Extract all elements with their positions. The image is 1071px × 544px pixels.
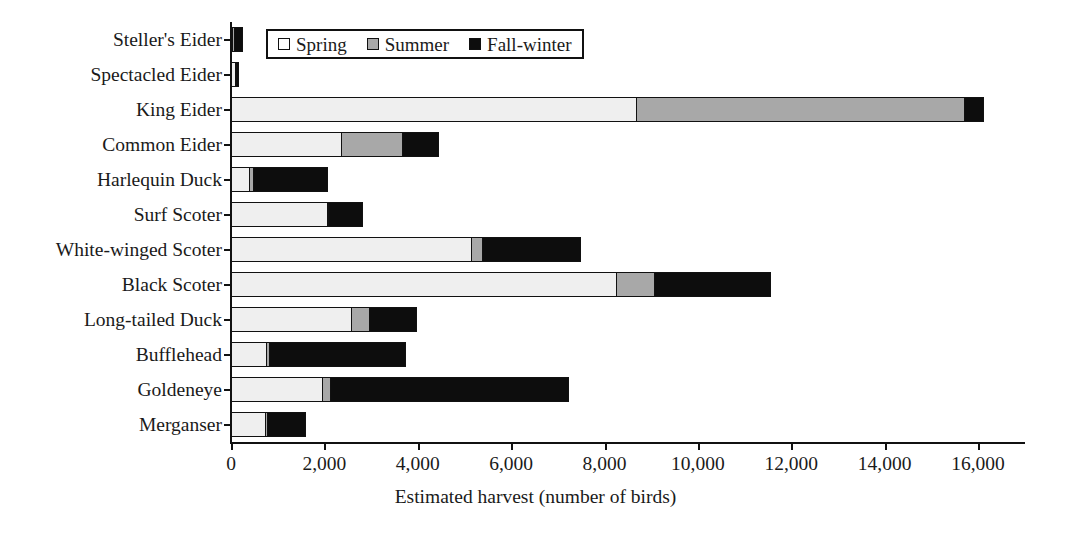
stacked-bar	[231, 132, 437, 157]
y-axis-tick	[224, 284, 231, 286]
legend-swatch-spring	[278, 38, 290, 50]
bar-segment-fall-winter	[236, 62, 239, 87]
bar-row: Bufflehead	[231, 337, 1025, 372]
x-axis-title: Estimated harvest (number of birds)	[0, 487, 1071, 507]
x-axis-tick	[885, 442, 887, 450]
bar-segment-fall-winter	[269, 342, 406, 367]
y-axis-label: Common Eider	[102, 135, 222, 155]
x-axis-tick-label: 10,000	[671, 454, 725, 474]
bar-segment-spring	[231, 97, 638, 122]
bar-row: Long-tailed Duck	[231, 302, 1025, 337]
y-axis-tick	[224, 249, 231, 251]
bar-segment-summer	[341, 132, 404, 157]
bar-segment-spring	[231, 202, 328, 227]
legend-item-spring: Spring	[278, 35, 347, 54]
legend-label-summer: Summer	[385, 35, 449, 54]
x-axis-tick-label: 8,000	[583, 454, 627, 474]
x-axis-tick	[605, 442, 607, 450]
y-axis-label: Black Scoter	[122, 275, 222, 295]
x-axis-tick-label: 16,000	[951, 454, 1005, 474]
x-axis-tick	[418, 442, 420, 450]
bar-segment-spring	[231, 412, 267, 437]
y-axis-label: King Eider	[136, 100, 222, 120]
bar-segment-summer	[616, 272, 656, 297]
x-axis-tick-label: 14,000	[858, 454, 912, 474]
bar-row: Surf Scoter	[231, 197, 1025, 232]
bar-segment-fall-winter	[234, 27, 243, 52]
y-axis-tick	[224, 39, 231, 41]
y-axis-tick	[224, 319, 231, 321]
x-axis-tick-label: 12,000	[764, 454, 818, 474]
plot-area: Steller's EiderSpectacled EiderKing Eide…	[231, 22, 1025, 442]
chart-legend: Spring Summer Fall-winter	[266, 29, 584, 59]
stacked-bar	[231, 237, 579, 262]
x-axis-tick	[324, 442, 326, 450]
bar-segment-fall-winter	[964, 97, 984, 122]
x-axis-line	[231, 442, 1025, 444]
x-axis-tick	[231, 442, 233, 450]
stacked-bar	[231, 62, 237, 87]
y-axis-tick	[224, 214, 231, 216]
y-axis-label: White-winged Scoter	[56, 240, 222, 260]
bar-segment-fall-winter	[267, 412, 307, 437]
stacked-bar	[231, 342, 404, 367]
stacked-bar	[231, 97, 982, 122]
x-axis-tick-label: 0	[226, 454, 236, 474]
bar-segment-spring	[231, 132, 342, 157]
x-axis-tick	[511, 442, 513, 450]
bar-segment-spring	[231, 307, 353, 332]
y-axis-label: Spectacled Eider	[90, 65, 222, 85]
y-axis-tick	[224, 179, 231, 181]
bar-row: Harlequin Duck	[231, 162, 1025, 197]
x-axis-tick	[698, 442, 700, 450]
x-axis-tick	[791, 442, 793, 450]
bar-segment-fall-winter	[482, 237, 581, 262]
legend-item-summer: Summer	[367, 35, 449, 54]
y-axis-tick	[224, 74, 231, 76]
y-axis-label: Merganser	[139, 415, 222, 435]
bar-segment-spring	[231, 272, 617, 297]
legend-label-fall-winter: Fall-winter	[487, 35, 571, 54]
legend-swatch-fall-winter	[469, 38, 481, 50]
bar-segment-spring	[231, 342, 268, 367]
bar-row: Merganser	[231, 407, 1025, 442]
stacked-bar	[231, 202, 361, 227]
y-axis-tick	[224, 109, 231, 111]
bar-segment-fall-winter	[402, 132, 439, 157]
y-axis-label: Surf Scoter	[134, 205, 222, 225]
y-axis-tick	[224, 424, 231, 426]
bar-segment-fall-winter	[328, 202, 363, 227]
y-axis-tick	[224, 144, 231, 146]
stacked-bar	[231, 272, 770, 297]
bar-segment-spring	[231, 377, 324, 402]
bar-segment-spring	[231, 237, 473, 262]
legend-item-fall-winter: Fall-winter	[469, 35, 571, 54]
x-axis-tick-label: 4,000	[396, 454, 440, 474]
y-axis-tick	[224, 354, 231, 356]
y-axis-tick	[224, 389, 231, 391]
x-axis-tick-label: 6,000	[489, 454, 533, 474]
bar-segment-fall-winter	[330, 377, 569, 402]
x-axis-tick	[978, 442, 980, 450]
bar-segment-spring	[231, 167, 251, 192]
bar-row: White-winged Scoter	[231, 232, 1025, 267]
x-axis-tick-label: 2,000	[302, 454, 346, 474]
stacked-bar	[231, 307, 415, 332]
bar-row: Goldeneye	[231, 372, 1025, 407]
y-axis-label: Harlequin Duck	[97, 170, 222, 190]
y-axis-label: Bufflehead	[136, 345, 222, 365]
stacked-bar	[231, 27, 241, 52]
bar-row: Black Scoter	[231, 267, 1025, 302]
bar-chart: Spring Summer Fall-winter Steller's Eide…	[0, 0, 1071, 544]
bar-segment-fall-winter	[253, 167, 328, 192]
y-axis-label: Steller's Eider	[113, 30, 222, 50]
bar-segment-fall-winter	[369, 307, 417, 332]
bar-segment-summer	[636, 97, 965, 122]
bar-row: Common Eider	[231, 127, 1025, 162]
legend-swatch-summer	[367, 38, 379, 50]
bar-row: King Eider	[231, 92, 1025, 127]
stacked-bar	[231, 412, 305, 437]
legend-label-spring: Spring	[296, 35, 347, 54]
bar-segment-summer	[351, 307, 370, 332]
y-axis-label: Goldeneye	[138, 380, 222, 400]
